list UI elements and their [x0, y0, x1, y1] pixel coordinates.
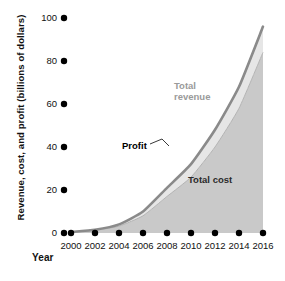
y-tick-dot	[61, 144, 67, 150]
y-tick-label: 100	[31, 12, 57, 23]
y-tick-dot	[61, 230, 67, 236]
y-tick-dot	[61, 58, 67, 64]
x-tick-dot	[116, 230, 122, 236]
total-cost-area	[71, 52, 263, 233]
y-tick-dot	[61, 187, 67, 193]
x-tick-dot	[164, 230, 170, 236]
x-tick-dot	[188, 230, 194, 236]
series-label-total-cost: Total cost	[188, 174, 232, 185]
series-label-profit: Profit	[122, 140, 147, 151]
y-tick-dot	[61, 15, 67, 21]
x-tick-dot	[68, 230, 74, 236]
series-label-total-revenue: Total revenue	[174, 80, 210, 102]
x-tick-dot	[212, 230, 218, 236]
x-tick-label: 2016	[249, 240, 277, 251]
y-tick-label: 40	[31, 141, 57, 152]
y-tick-label: 20	[31, 184, 57, 195]
y-tick-label: 0	[31, 227, 57, 238]
x-axis-title: Year	[32, 252, 54, 263]
x-tick-dot	[260, 230, 266, 236]
x-tick-dot	[236, 230, 242, 236]
profit-leader-line	[150, 139, 169, 146]
y-tick-dot	[61, 101, 67, 107]
y-axis-title: Revenue, cost, and profit (billions of d…	[15, 2, 26, 234]
y-tick-label: 80	[31, 55, 57, 66]
x-tick-dot	[140, 230, 146, 236]
chart-figure: Revenue, cost, and profit (billions of d…	[0, 0, 285, 281]
x-tick-dot	[92, 230, 98, 236]
y-tick-label: 60	[31, 98, 57, 109]
